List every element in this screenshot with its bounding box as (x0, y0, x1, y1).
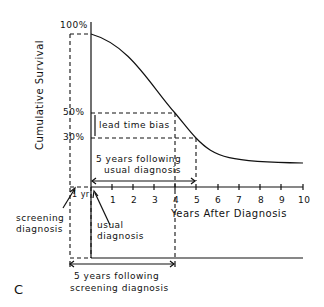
usual-span-label-1: 5 years following (96, 154, 181, 164)
x-tick: 1 (110, 195, 116, 205)
x-tick: 7 (236, 195, 242, 205)
x-tick: 3 (152, 195, 158, 205)
y-tick-100: 100% (60, 20, 88, 30)
x-tick: 6 (215, 195, 221, 205)
y-axis-label: Cumulative Survival (34, 40, 45, 150)
x-tick: 9 (279, 195, 285, 205)
screening-span-label-2: screening diagnosis (70, 283, 169, 293)
y-tick-30: 30% (63, 132, 85, 142)
x-tick: 8 (258, 195, 264, 205)
one-year-label: 1 yr (72, 190, 90, 199)
screening-diagnosis-label-2: diagnosis (16, 224, 63, 234)
x-tick: 2 (131, 195, 137, 205)
panel-label: C (14, 282, 24, 297)
screening-diagnosis-label-1: screening (16, 213, 64, 223)
x-axis-label: Years After Diagnosis (171, 208, 287, 219)
screening-span-label-1: 5 years following (74, 271, 159, 281)
lead-time-label: lead time bias (99, 120, 170, 130)
usual-diagnosis-label-1: usual (97, 220, 124, 230)
usual-diagnosis-label-2: diagnosis (97, 231, 144, 241)
y-tick-50: 50% (63, 107, 85, 117)
x-tick: 5 (194, 195, 200, 205)
usual-span-label-2: usual diagnosis (104, 165, 181, 175)
x-tick: 4 (173, 195, 179, 205)
x-tick: 10 (298, 195, 310, 205)
